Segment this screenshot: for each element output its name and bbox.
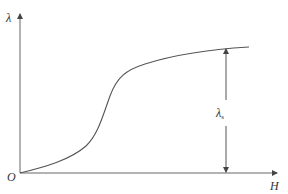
y-axis-label: λ (6, 12, 11, 24)
saturation-subscript: s (221, 113, 224, 121)
origin-label: O (7, 171, 16, 183)
saturation-label: λs (216, 107, 224, 121)
magnetostriction-diagram (0, 0, 288, 194)
x-axis-label: H (270, 180, 279, 192)
magnetostriction-curve (20, 47, 249, 173)
